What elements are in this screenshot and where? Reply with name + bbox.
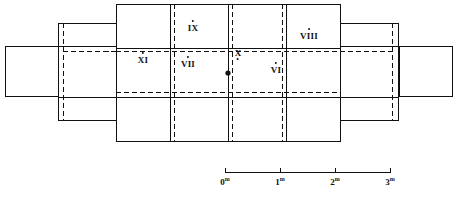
room-point-marker-x xyxy=(237,58,239,60)
scale-tick-label-0: 0m xyxy=(220,176,230,187)
scale-tick-unit: m xyxy=(390,176,395,182)
room-label-vii: VII xyxy=(181,56,195,69)
room-label-text: IX xyxy=(188,23,198,33)
plan-drawing xyxy=(0,0,457,197)
room-label-text: VII xyxy=(181,59,195,69)
scale-tick-label-2: 2m xyxy=(330,176,340,187)
room-label-xi: XI xyxy=(138,52,148,65)
room-label-text: X xyxy=(235,48,242,58)
room-label-text: XI xyxy=(138,55,148,65)
scale-bar-graphic xyxy=(225,168,391,173)
room-label-text: VI xyxy=(271,65,281,75)
room-label-text: VIII xyxy=(300,31,318,41)
room-label-ix: IX xyxy=(188,20,198,33)
right-wing-outline xyxy=(341,24,399,121)
scale-tick-label-1: 1m xyxy=(275,176,285,187)
center-point xyxy=(225,70,230,75)
left-wing-outline xyxy=(59,24,117,121)
scale-tick-label-3: 3m xyxy=(385,176,395,187)
room-label-viii: VIII xyxy=(300,28,318,41)
scale-tick-unit: m xyxy=(280,176,285,182)
center-point-marker xyxy=(225,70,230,75)
left-annex-outline xyxy=(6,47,59,97)
room-label-x: X xyxy=(235,49,242,62)
room-label-vi: VI xyxy=(271,62,281,75)
scale-tick-unit: m xyxy=(225,176,230,182)
site-plan-figure: IXXVIIIXIVIIVI 0m1m2m3m xyxy=(0,0,457,197)
right-annex-outline xyxy=(400,47,453,97)
scale-tick-unit: m xyxy=(335,176,340,182)
